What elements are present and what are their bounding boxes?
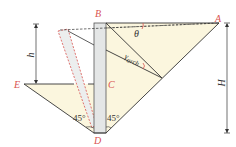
label-left-45: 45°: [73, 113, 86, 123]
h-arrow-bottom: [34, 80, 38, 84]
label-D: D: [94, 136, 101, 146]
label-B: B: [95, 9, 101, 19]
H-arrow-bottom: [225, 129, 229, 133]
label-C: C: [108, 80, 115, 90]
label-H: H: [217, 79, 227, 86]
H-arrow-top: [225, 23, 229, 27]
label-right-45: 45°: [107, 113, 120, 123]
label-A: A: [215, 14, 221, 24]
retaining-wall-diagram: B A C D E h H θ γarch 45° 45°: [0, 0, 236, 147]
h-arrow-top: [34, 24, 38, 28]
retaining-wall: [94, 23, 106, 133]
label-h: h: [26, 53, 36, 58]
label-theta: θ: [134, 29, 139, 39]
label-E: E: [14, 80, 20, 90]
diagram-svg: [0, 0, 236, 147]
